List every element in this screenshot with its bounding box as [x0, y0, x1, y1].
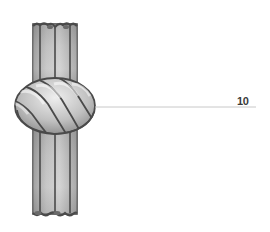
rope-lower	[33, 124, 77, 215]
callout-label-10: 10	[237, 95, 249, 107]
rope-knot-diagram	[0, 0, 270, 232]
knot	[0, 75, 98, 140]
